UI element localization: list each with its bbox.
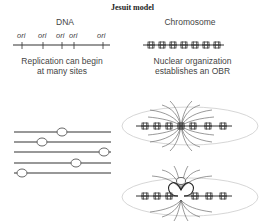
chromosome-array xyxy=(143,42,224,49)
replication-strands xyxy=(14,128,111,177)
dna-line xyxy=(13,42,110,49)
diagram-graphics xyxy=(0,0,265,221)
nucleus-panel-1 xyxy=(122,101,258,151)
nucleus-panel-2 xyxy=(122,166,258,221)
